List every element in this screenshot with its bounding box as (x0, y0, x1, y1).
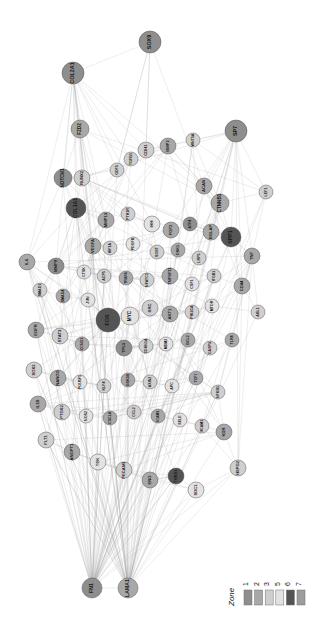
graph-node[interactable]: MTOR (205, 299, 219, 313)
node-label: PTH1R (126, 208, 130, 220)
graph-node[interactable]: MMP9 (48, 258, 64, 274)
graph-node[interactable]: NOTCH1 (54, 168, 72, 188)
node-label: STAT3 (57, 329, 62, 342)
legend-label: 7 (295, 582, 302, 586)
graph-node[interactable]: CASP3 (203, 341, 217, 355)
node-label: FGF2 (168, 224, 173, 235)
graph-node[interactable]: SP7 (225, 120, 247, 142)
graph-node[interactable]: SELE (173, 413, 187, 427)
graph-node[interactable]: TEK (90, 454, 106, 470)
graph-node[interactable]: WNT5A (186, 133, 200, 147)
edge (27, 73, 73, 262)
graph-node[interactable]: MDM2 (159, 337, 173, 351)
graph-node[interactable]: GSK3B (121, 373, 135, 387)
edge (38, 340, 232, 404)
node-label: ANGPT1 (69, 443, 74, 461)
graph-node[interactable]: SRC (142, 300, 158, 316)
graph-node[interactable]: LEF1 (259, 185, 273, 199)
graph-node[interactable]: SOST (150, 245, 164, 259)
graph-node[interactable]: AKT1 (162, 306, 178, 322)
node-label: CD44 (239, 280, 244, 291)
graph-node[interactable]: TLR4 (225, 333, 239, 347)
graph-node[interactable]: IL1B (30, 396, 46, 412)
graph-node[interactable]: NFKB1 (211, 385, 225, 399)
graph-node[interactable]: CCL2 (127, 405, 141, 419)
graph-node[interactable]: CXCL8 (103, 411, 117, 425)
node-label: EGFR (33, 324, 38, 336)
graph-node[interactable]: COL1A1 (66, 198, 86, 219)
graph-node[interactable]: RUNX2 (74, 170, 90, 186)
graph-node[interactable]: NOS2 (79, 409, 93, 423)
graph-node[interactable]: LRP5 (192, 251, 206, 265)
graph-node[interactable]: FGF2 (163, 222, 179, 238)
graph-node[interactable]: MMP13 (98, 212, 114, 228)
node-label: PECAM1 (121, 461, 126, 479)
node-label: TEK (95, 458, 100, 466)
graph-node[interactable]: DKK1 (171, 243, 185, 257)
graph-node[interactable]: ATF4 (183, 217, 197, 231)
graph-node[interactable]: TNFSF11 (162, 266, 178, 284)
graph-node[interactable]: PIK3CA (185, 305, 199, 319)
graph-node[interactable]: FLT1 (38, 432, 54, 448)
graph-node[interactable]: SDC1 (188, 482, 204, 498)
graph-node[interactable]: VCAM1 (195, 419, 209, 433)
graph-node[interactable]: NANOG (50, 370, 66, 386)
graph-node[interactable]: JUN (81, 293, 95, 307)
graph-node[interactable]: ABL1 (251, 305, 265, 319)
graph-node[interactable]: TNF (244, 248, 260, 264)
edge (38, 404, 92, 588)
graph-node[interactable]: BMP2 (160, 138, 176, 154)
graph-node[interactable]: PDGFB (126, 237, 140, 251)
graph-node[interactable]: SMAD1 (33, 283, 47, 297)
graph-node[interactable]: SPP1 (221, 227, 241, 247)
graph-node[interactable]: NFATC1 (140, 273, 154, 287)
graph-node[interactable]: CSF1 (185, 277, 199, 291)
graph-node[interactable]: THBS1 (168, 468, 184, 484)
graph-node[interactable]: TP53 (116, 340, 132, 356)
graph-node[interactable]: CD44 (234, 278, 250, 294)
node-label: PTGS2 (59, 405, 64, 419)
graph-node[interactable]: COL2A1 (62, 62, 84, 84)
graph-node[interactable]: ACP5 (97, 269, 111, 283)
graph-node[interactable]: SOX2 (26, 362, 42, 378)
graph-node[interactable]: TCF7 (189, 371, 203, 385)
graph-node[interactable]: KDR (216, 424, 232, 440)
graph-node[interactable]: PECAM1 (116, 461, 132, 479)
graph-node[interactable]: ITGB1 (207, 269, 221, 283)
graph-node[interactable]: ICAM1 (151, 409, 165, 423)
node-label: SP7 (232, 126, 238, 136)
graph-node[interactable]: ENG (142, 472, 158, 488)
graph-node[interactable]: TRAF6 (119, 271, 133, 285)
graph-node[interactable]: SMAD4 (56, 289, 70, 303)
graph-node[interactable]: ACAN (196, 178, 212, 194)
graph-node[interactable]: VEGFA (85, 238, 101, 254)
graph-node[interactable]: AXIN2 (143, 375, 157, 389)
graph-node[interactable]: GDF5 (110, 163, 124, 177)
graph-node[interactable]: FOS (96, 308, 120, 332)
graph-node[interactable]: IHH (144, 216, 160, 232)
graph-node[interactable]: TGFB1 (124, 152, 138, 166)
graph-node[interactable]: EGFR (28, 322, 44, 338)
graph-node[interactable]: BCL2 (181, 333, 195, 347)
graph-node[interactable]: CTSK (77, 265, 91, 279)
graph-node[interactable]: HSPG2 (230, 460, 246, 476)
graph-node[interactable]: MYC (121, 307, 139, 325)
edge (60, 208, 76, 336)
graph-node[interactable]: FN1 (82, 578, 102, 598)
graph-node[interactable]: IL6 (19, 254, 35, 270)
graph-node[interactable]: PTGS2 (54, 404, 70, 420)
graph-node[interactable]: FZD2 (71, 120, 89, 138)
graph-node[interactable]: LAMA1 (118, 578, 138, 598)
graph-node[interactable]: CDH1 (138, 142, 154, 158)
graph-node[interactable]: CCND1 (75, 337, 89, 351)
graph-node[interactable]: STAT3 (52, 328, 68, 344)
graph-node[interactable]: SOX9 (139, 31, 161, 53)
graph-node[interactable]: BGLAP (203, 224, 219, 240)
graph-node[interactable]: POU5F1 (73, 375, 87, 389)
node-label: SRC (147, 304, 152, 313)
legend-swatch (297, 590, 305, 605)
graph-node[interactable]: KLF4 (97, 379, 111, 393)
graph-node[interactable]: APC (165, 379, 179, 393)
graph-node[interactable]: HIF1A (103, 241, 117, 255)
graph-node[interactable]: PTH1R (121, 207, 135, 221)
